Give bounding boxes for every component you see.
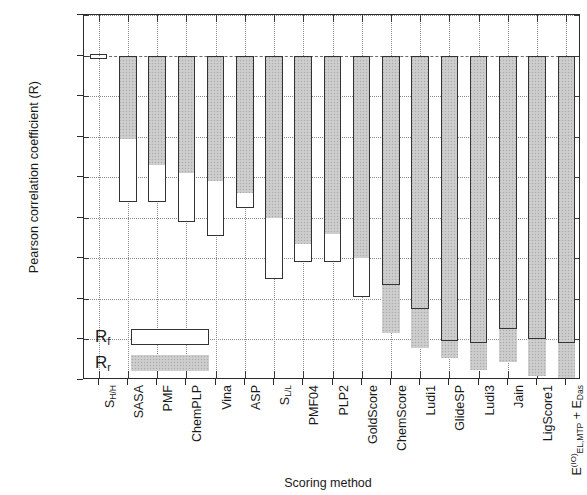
x-tick-top: [303, 15, 304, 22]
x-tick-bottom: [303, 371, 304, 378]
x-tick-label: GlideSP: [453, 385, 467, 431]
legend-swatch-rf: [131, 329, 209, 345]
plot-inner: [84, 15, 579, 378]
x-tick-label: SASA: [132, 385, 146, 418]
x-tick-mark: [478, 379, 479, 385]
y-tick-mark: [77, 55, 83, 56]
x-tick-bottom: [362, 371, 363, 378]
chart-root: Pearson correlation coefficient (R) Scor…: [0, 0, 587, 495]
x-tick-mark: [98, 379, 99, 385]
y-tick-inner: [84, 96, 89, 97]
gridline-horizontal: [84, 15, 579, 16]
bar-rf: [499, 56, 517, 330]
x-tick-label: Ludi1: [424, 385, 438, 416]
x-tick-label: SH/H: [103, 385, 117, 408]
x-tick-top: [128, 15, 129, 22]
x-tick-top: [508, 15, 509, 22]
x-tick-top: [186, 15, 187, 22]
x-tick-mark: [332, 379, 333, 385]
x-tick-mark: [215, 379, 216, 385]
x-tick-label: GoldScore: [366, 385, 380, 444]
y-tick-inner: [84, 56, 89, 57]
x-tick-bottom: [391, 371, 392, 378]
x-tick-label: SL/L: [278, 385, 292, 405]
x-tick-top: [245, 15, 246, 22]
legend-label-rr: Rr: [95, 353, 111, 373]
y-tick-mark: [77, 176, 83, 177]
x-tick-top: [537, 15, 538, 22]
bar-rf: [353, 56, 371, 297]
x-tick-mark: [302, 379, 303, 385]
bar-rf: [558, 56, 576, 344]
bar-rf: [411, 56, 429, 309]
bar-rf: [236, 56, 254, 208]
x-tick-mark: [185, 379, 186, 385]
x-tick-mark: [507, 379, 508, 385]
x-tick-mark: [448, 379, 449, 385]
x-tick-top: [157, 15, 158, 22]
y-tick-mark: [77, 379, 83, 380]
y-tick-inner: [84, 15, 89, 16]
y-tick-inner: [84, 177, 89, 178]
y-tick-inner: [84, 339, 89, 340]
x-tick-bottom: [508, 371, 509, 378]
bar-rf: [441, 56, 459, 342]
x-tick-mark: [419, 379, 420, 385]
bar-rf: [90, 54, 108, 59]
x-tick-label: PMF04: [307, 385, 321, 425]
x-tick-bottom: [479, 371, 480, 378]
x-tick-label: LigScore1: [541, 385, 555, 441]
y-tick-mark: [77, 257, 83, 258]
bar-rf: [470, 56, 488, 344]
x-tick-mark: [127, 379, 128, 385]
x-tick-mark: [244, 379, 245, 385]
legend: Rf Rr: [95, 327, 217, 375]
bar-rf: [178, 56, 196, 222]
plot-area: [83, 14, 580, 379]
y-axis-title: Pearson correlation coefficient (R): [27, 57, 41, 297]
y-tick-inner-right: [574, 15, 579, 16]
x-tick-label: Ludi3: [483, 385, 497, 416]
x-tick-label: ChemPLP: [190, 385, 204, 442]
bar-rf: [148, 56, 166, 202]
x-axis-title: Scoring method: [238, 476, 418, 490]
x-tick-top: [479, 15, 480, 22]
x-tick-bottom: [245, 371, 246, 378]
x-tick-mark: [156, 379, 157, 385]
legend-entry-rf: Rf: [95, 327, 217, 347]
x-tick-top: [362, 15, 363, 22]
bar-rf: [382, 56, 400, 285]
x-tick-top: [99, 15, 100, 22]
x-tick-label: ChemScore: [395, 385, 409, 451]
x-tick-top: [216, 15, 217, 22]
x-tick-label: ASP: [249, 385, 263, 410]
x-tick-top: [420, 15, 421, 22]
x-tick-label: PLP2: [337, 385, 351, 416]
x-tick-mark: [273, 379, 274, 385]
bar-rf: [294, 56, 312, 263]
bar-rf: [207, 56, 225, 236]
x-tick-label: PMF: [161, 385, 175, 411]
y-tick-inner: [84, 137, 89, 138]
y-tick-inner: [84, 299, 89, 300]
y-tick-mark: [77, 338, 83, 339]
x-tick-label: Vina: [220, 385, 234, 410]
x-tick-mark: [390, 379, 391, 385]
x-tick-top: [449, 15, 450, 22]
legend-swatch-rr: [131, 355, 209, 371]
x-tick-bottom: [449, 371, 450, 378]
x-tick-mark: [565, 379, 566, 385]
legend-entry-rr: Rr: [95, 353, 217, 373]
y-tick-inner: [84, 218, 89, 219]
gridline-vertical: [99, 15, 100, 378]
legend-label-rf: Rf: [95, 327, 110, 347]
bar-rf: [119, 56, 137, 202]
y-tick-mark: [77, 136, 83, 137]
y-tick-mark: [77, 298, 83, 299]
y-tick-mark: [77, 217, 83, 218]
y-tick-mark: [77, 95, 83, 96]
x-tick-mark: [536, 379, 537, 385]
x-tick-label: E(IO)EL,MTP + EDas: [570, 385, 584, 476]
y-tick-mark: [77, 14, 83, 15]
x-tick-label: Jain: [512, 385, 526, 408]
